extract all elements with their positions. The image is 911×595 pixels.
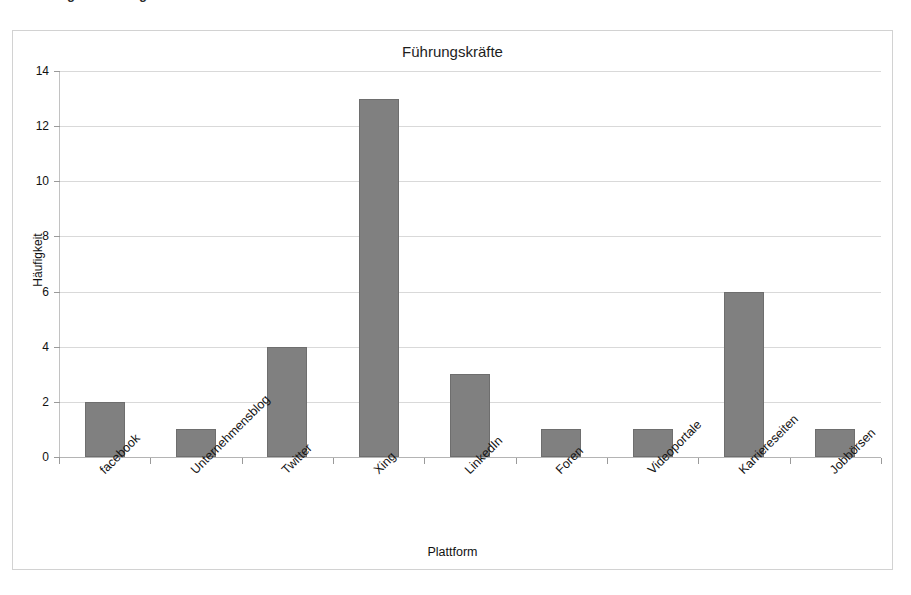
cut-off-caption-text: Abbildung 5: Nutzung der Plattformen der… [10, 0, 480, 3]
x-axis-tick [698, 458, 699, 464]
y-axis-tick-labels: 02468101214 [13, 31, 49, 569]
x-axis-tick [424, 458, 425, 464]
y-axis-tick-label: 4 [9, 340, 49, 354]
y-axis-tick [54, 181, 60, 182]
y-axis-tick-label: 0 [9, 450, 49, 464]
y-axis-tick [54, 347, 60, 348]
chart-frame: Führungskräfte Häufigkeit 02468101214 Pl… [12, 30, 893, 570]
x-axis-tick [790, 458, 791, 464]
chart-title: Führungskräfte [13, 43, 892, 60]
gridline [59, 181, 881, 182]
gridline [59, 71, 881, 72]
bar [359, 99, 399, 457]
x-axis-title: Plattform [13, 545, 892, 559]
x-axis-tick [333, 458, 334, 464]
y-axis-tick-label: 6 [9, 285, 49, 299]
y-axis-tick [54, 236, 60, 237]
y-axis-tick-label: 8 [9, 229, 49, 243]
y-axis-tick-label: 10 [9, 174, 49, 188]
x-axis-tick [59, 458, 60, 464]
y-axis-tick-label: 2 [9, 395, 49, 409]
gridline [59, 236, 881, 237]
x-axis-tick [881, 458, 882, 464]
y-axis-tick [54, 402, 60, 403]
x-axis-tick [150, 458, 151, 464]
gridline [59, 126, 881, 127]
y-axis-tick-label: 14 [9, 64, 49, 78]
bar [267, 347, 307, 457]
x-axis-tick [242, 458, 243, 464]
y-axis-tick [54, 292, 60, 293]
plot-area [59, 71, 881, 457]
bar [724, 292, 764, 457]
y-axis-tick-label: 12 [9, 119, 49, 133]
x-axis-tick [516, 458, 517, 464]
x-axis-tick [607, 458, 608, 464]
y-axis-tick [54, 126, 60, 127]
y-axis-tick [54, 71, 60, 72]
